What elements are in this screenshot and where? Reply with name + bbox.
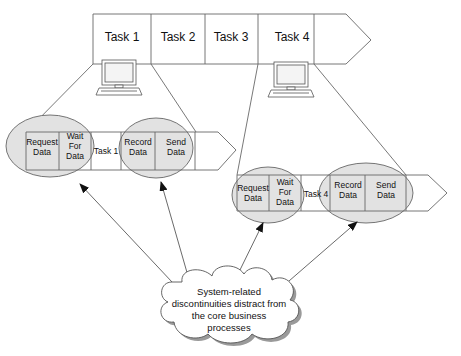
top-task-3: Task 3 — [214, 30, 249, 44]
right-step-send-data: SendData — [376, 180, 396, 200]
right-process-bar: RequestData WaitForData Task 4 RecordDat… — [232, 163, 447, 223]
left-step-send-data: SendData — [166, 137, 186, 157]
cloud-text-line-3: the core business — [192, 310, 267, 321]
top-process-bar: Task 1 Task 2 Task 3 Task 4 — [93, 14, 371, 64]
computer-icon — [96, 60, 142, 95]
cloud-text-line-2: discontinuities distract from — [172, 298, 287, 309]
top-task-2: Task 2 — [161, 30, 196, 44]
system-ellipse — [319, 163, 413, 223]
top-task-4: Task 4 — [275, 30, 310, 44]
right-step-task-4: Task 4 — [304, 189, 329, 199]
computer-icon — [268, 62, 314, 97]
cloud-callout: System-related discontinuities distract … — [161, 266, 302, 346]
cloud-text-line-4: processes — [207, 322, 251, 333]
left-step-task-1: Task 1 — [94, 146, 119, 156]
top-task-1: Task 1 — [105, 30, 140, 44]
cloud-text-line-1: System-related — [197, 286, 261, 297]
left-process-bar: RequestData WaitForData Task 1 RecordDat… — [6, 115, 236, 178]
